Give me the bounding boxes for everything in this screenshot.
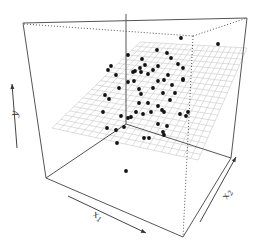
regression-plane-grid bbox=[52, 42, 247, 160]
data-point bbox=[156, 79, 160, 83]
data-point bbox=[161, 130, 165, 134]
axis-label-x2: x2 bbox=[219, 186, 235, 201]
data-point bbox=[147, 136, 151, 140]
data-point bbox=[176, 62, 180, 66]
box-edge-hidden bbox=[24, 24, 193, 36]
data-point bbox=[137, 101, 141, 105]
data-point bbox=[137, 87, 141, 91]
data-point bbox=[109, 64, 113, 68]
data-point bbox=[161, 91, 165, 95]
axis-arrows bbox=[10, 84, 236, 233]
box-edge-hidden bbox=[193, 18, 247, 36]
box-edge bbox=[23, 18, 247, 23]
box-edge bbox=[46, 178, 183, 237]
plane-grid-line bbox=[198, 48, 247, 160]
data-point bbox=[165, 124, 169, 128]
arrowhead-icon bbox=[232, 157, 236, 162]
data-point bbox=[140, 57, 144, 61]
data-point bbox=[114, 73, 118, 77]
data-point bbox=[181, 66, 185, 70]
data-point bbox=[139, 92, 143, 96]
data-point bbox=[131, 70, 135, 74]
box-edge bbox=[46, 124, 126, 178]
data-point bbox=[165, 51, 169, 55]
plane-grid-line bbox=[176, 47, 231, 155]
data-point bbox=[179, 36, 183, 40]
data-point bbox=[126, 53, 130, 57]
arrowhead-icon bbox=[141, 229, 146, 233]
data-point bbox=[181, 78, 185, 82]
box-edge bbox=[126, 124, 231, 158]
data-point bbox=[184, 114, 188, 118]
box-edge bbox=[231, 18, 247, 158]
data-point bbox=[126, 116, 130, 120]
data-point bbox=[105, 126, 109, 130]
data-point bbox=[168, 98, 172, 102]
data-point bbox=[156, 122, 160, 126]
x2-axis-arrow bbox=[200, 157, 236, 222]
data-point bbox=[162, 78, 166, 82]
plane-grid-line bbox=[140, 42, 247, 48]
data-point bbox=[114, 128, 118, 132]
data-point bbox=[186, 110, 190, 114]
data-point bbox=[122, 125, 126, 129]
data-point bbox=[146, 72, 150, 76]
data-point bbox=[170, 83, 174, 87]
data-point bbox=[166, 73, 170, 77]
plane-grid-line bbox=[131, 51, 242, 60]
data-point bbox=[126, 80, 130, 84]
box-edge-hidden bbox=[183, 36, 193, 237]
data-point bbox=[146, 101, 150, 105]
data-point bbox=[138, 66, 142, 70]
data-point bbox=[107, 97, 111, 101]
data-point bbox=[134, 110, 138, 114]
data-point bbox=[178, 112, 182, 116]
data-point bbox=[216, 42, 220, 46]
data-point bbox=[173, 91, 177, 95]
data-point bbox=[124, 169, 128, 173]
data-point bbox=[142, 136, 146, 140]
data-point bbox=[117, 86, 121, 90]
data-point bbox=[101, 110, 105, 114]
data-point bbox=[155, 48, 159, 52]
data-point bbox=[156, 104, 160, 108]
3d-scatter-plot: x1yx2 bbox=[0, 0, 257, 247]
data-point bbox=[156, 64, 160, 68]
data-point bbox=[162, 110, 166, 114]
data-point bbox=[151, 68, 155, 72]
axis-label-y: y bbox=[8, 110, 20, 119]
data-point bbox=[151, 86, 155, 90]
data-point bbox=[132, 79, 136, 83]
data-point bbox=[143, 63, 147, 67]
data-point bbox=[119, 114, 123, 118]
box-edge bbox=[23, 23, 46, 178]
x1-axis-arrow bbox=[68, 196, 146, 233]
data-point bbox=[115, 141, 119, 145]
data-point bbox=[139, 70, 143, 74]
data-point bbox=[103, 93, 107, 97]
axis-label-x1: x1 bbox=[90, 208, 105, 224]
data-point bbox=[106, 68, 110, 72]
data-point bbox=[141, 112, 145, 116]
data-point bbox=[169, 56, 173, 60]
data-point bbox=[149, 110, 153, 114]
